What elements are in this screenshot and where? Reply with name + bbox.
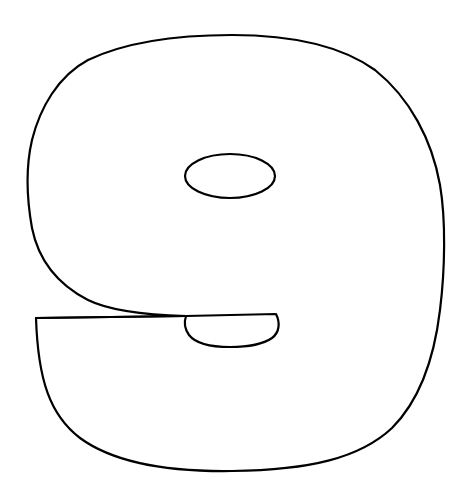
nine-outline-svg bbox=[0, 0, 466, 495]
numeral-nine-drawing: 9 bbox=[0, 0, 466, 495]
nine-outer-outline bbox=[27, 35, 444, 471]
nine-inner-notch bbox=[185, 314, 279, 347]
nine-counter-hole bbox=[185, 154, 275, 198]
